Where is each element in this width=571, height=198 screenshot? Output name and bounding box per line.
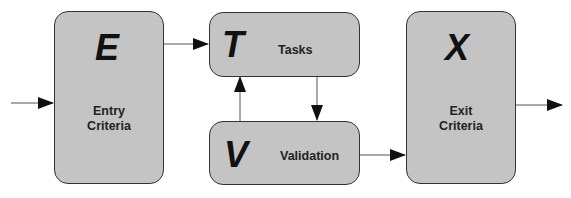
entry-criteria-box: E Entry Criteria [54, 11, 164, 184]
entry-label: Entry Criteria [55, 104, 163, 134]
exit-criteria-box: X Exit Criteria [406, 11, 516, 184]
entry-letter: E [95, 30, 119, 66]
tasks-box: T Tasks [209, 12, 360, 77]
validation-letter: V [224, 137, 248, 173]
tasks-label: Tasks [278, 43, 313, 58]
exit-letter: X [445, 30, 469, 66]
exit-label: Exit Criteria [407, 104, 515, 134]
validation-label: Validation [280, 149, 339, 164]
validation-box: V Validation [209, 121, 360, 185]
tasks-letter: T [222, 27, 244, 63]
